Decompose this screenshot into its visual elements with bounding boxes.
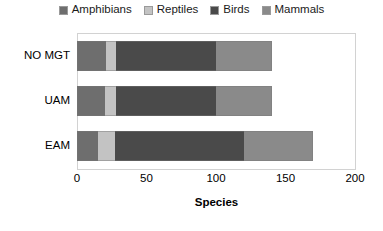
- y-axis-label-eam: EAM: [45, 139, 70, 151]
- legend-item-label: Amphibians: [72, 4, 132, 16]
- legend-swatch-icon: [59, 6, 68, 15]
- x-axis-tick-labels: 050100150200: [0, 172, 383, 190]
- legend-item-birds: Birds: [210, 4, 249, 16]
- x-tick-label: 0: [74, 172, 80, 184]
- x-tick-label: 150: [276, 172, 295, 184]
- legend-swatch-icon: [210, 6, 219, 15]
- bar-segment-reptiles: [106, 41, 116, 71]
- bar-segment-amphibians: [77, 131, 98, 161]
- bar-segment-mammals: [216, 86, 272, 116]
- bar-segment-amphibians: [77, 86, 105, 116]
- bar-segment-mammals: [244, 131, 314, 161]
- y-axis-label-uam: UAM: [44, 94, 70, 106]
- legend-item-label: Birds: [223, 4, 249, 16]
- bar-segment-amphibians: [77, 41, 106, 71]
- bar-row: [77, 41, 355, 71]
- bar-segment-birds: [115, 131, 244, 161]
- bar-segment-birds: [116, 86, 216, 116]
- x-axis-title: Species: [77, 196, 356, 208]
- legend-item-label: Mammals: [275, 4, 325, 16]
- x-tick-label: 100: [206, 172, 225, 184]
- bar-segment-mammals: [216, 41, 272, 71]
- bar-segment-reptiles: [105, 86, 116, 116]
- x-tick-label: 200: [345, 172, 364, 184]
- legend-item-reptiles: Reptiles: [144, 4, 199, 16]
- stacked-bar-chart: AmphibiansReptilesBirdsMammals NO MGTUAM…: [0, 0, 383, 231]
- bars-layer: [77, 33, 355, 169]
- y-axis-category-labels: NO MGTUAMEAM: [0, 33, 74, 169]
- legend-item-label: Reptiles: [157, 4, 199, 16]
- legend-item-mammals: Mammals: [262, 4, 325, 16]
- bar-row: [77, 86, 355, 116]
- legend-swatch-icon: [262, 6, 271, 15]
- bar-segment-reptiles: [98, 131, 115, 161]
- y-axis-label-no-mgt: NO MGT: [24, 49, 70, 61]
- chart-legend: AmphibiansReptilesBirdsMammals: [0, 2, 383, 18]
- x-tick-label: 50: [140, 172, 153, 184]
- bar-segment-birds: [116, 41, 216, 71]
- legend-swatch-icon: [144, 6, 153, 15]
- legend-item-amphibians: Amphibians: [59, 4, 132, 16]
- bar-row: [77, 131, 355, 161]
